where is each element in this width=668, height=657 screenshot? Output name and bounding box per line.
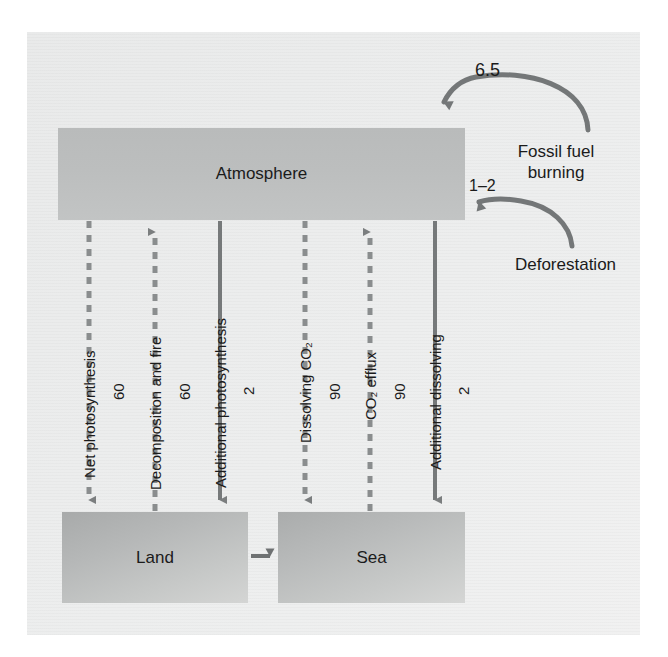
source-label-fossil-fuel-burning: Fossil fuel burning [497,141,615,184]
flow-value-co2-efflux: 90 [391,383,408,400]
flow-value-additional-dissolving: 2 [455,387,472,395]
source-value-fossil-fuel-burning: 6.5 [475,60,500,81]
flow-label-decomposition-and-fire: Decomposition and fire [147,337,164,490]
flow-label-dissolving-co2: Dissolving CO₂ [297,342,314,443]
flow-value-decomposition-and-fire: 60 [176,383,193,400]
flow-value-additional-photosynthesis: 2 [240,387,257,395]
flow-label-additional-dissolving: Additional dissolving [427,334,444,470]
source-label-deforestation: Deforestation [493,254,638,275]
flow-arrow-deforestation [479,199,572,246]
flow-arrow-fossil-fuel-burning [444,75,588,130]
flow-label-co2-efflux: CO₂ efflux [362,352,379,420]
flow-arrows-layer [0,0,668,657]
flow-value-net-photosynthesis: 60 [110,383,127,400]
source-label-fossil-fuel-burning-line2: burning [528,163,585,182]
source-value-deforestation: 1–2 [469,177,496,195]
reservoir-land-label: Land [136,548,174,568]
carbon-cycle-figure: Atmosphere Land Sea [0,0,668,657]
flow-label-additional-photosynthesis: Additional photosynthesis [212,318,229,488]
flow-label-net-photosynthesis: Net photosynthesis [81,350,98,478]
source-label-fossil-fuel-burning-line1: Fossil fuel [518,142,595,161]
flow-value-dissolving-co2: 90 [326,383,343,400]
reservoir-sea-label: Sea [356,548,386,568]
reservoir-atmosphere-label: Atmosphere [216,164,308,184]
